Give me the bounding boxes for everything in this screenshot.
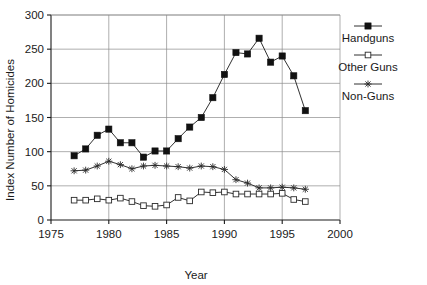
other-guns-marker-legend: [365, 52, 371, 58]
legend-item-non-guns[interactable]: Non-Guns: [342, 81, 395, 102]
non-guns-marker: [198, 163, 205, 170]
other-guns-marker: [222, 189, 228, 195]
legend-label: Other Guns: [338, 61, 398, 73]
other-guns-marker: [83, 197, 89, 203]
series-other-guns: [71, 189, 308, 209]
handguns-marker: [129, 140, 135, 146]
handguns-marker: [94, 132, 100, 138]
gridlines: [51, 15, 340, 220]
handguns-marker: [117, 140, 123, 146]
handguns-marker: [71, 153, 77, 159]
handguns-marker: [83, 146, 89, 152]
series-handguns: [71, 35, 308, 160]
non-guns-marker: [302, 186, 309, 193]
other-guns-marker: [71, 197, 77, 203]
legend: HandgunsOther GunsNon-Guns: [338, 23, 398, 102]
other-guns-marker: [175, 195, 181, 201]
homicide-index-line-chart: 050100150200250300 197519801985199019952…: [0, 0, 427, 285]
non-guns-marker: [117, 161, 124, 168]
legend-item-other-guns[interactable]: Other Guns: [338, 52, 398, 73]
non-guns-marker: [140, 163, 147, 170]
handguns-marker: [302, 108, 308, 114]
other-guns-marker: [152, 204, 158, 210]
other-guns-marker: [303, 199, 309, 205]
non-guns-marker: [71, 167, 78, 174]
non-guns-marker: [255, 184, 262, 191]
non-guns-marker: [186, 165, 193, 172]
handguns-marker: [279, 53, 285, 59]
other-guns-marker: [129, 199, 135, 205]
handguns-marker: [233, 49, 239, 55]
non-guns-marker: [82, 167, 89, 174]
y-axis-title: Index Number of Homicides: [4, 59, 16, 201]
non-guns-marker: [221, 166, 228, 173]
x-tick-label: 1975: [38, 228, 64, 240]
data-series: [71, 35, 309, 209]
y-tick-label: 300: [25, 9, 44, 21]
non-guns-marker-legend: [364, 81, 371, 88]
other-guns-marker: [268, 191, 274, 197]
non-guns-marker: [290, 184, 297, 191]
x-tick-label: 1980: [96, 228, 122, 240]
non-guns-marker: [175, 163, 182, 170]
chart-canvas: 050100150200250300 197519801985199019952…: [0, 0, 427, 285]
non-guns-marker: [94, 163, 101, 170]
y-tick-label: 0: [38, 214, 44, 226]
other-guns-marker: [94, 196, 100, 202]
non-guns-marker: [128, 165, 135, 172]
handguns-marker: [291, 73, 297, 79]
handguns-marker: [256, 35, 262, 41]
handguns-marker: [210, 95, 216, 101]
other-guns-marker: [291, 197, 297, 203]
other-guns-marker: [164, 202, 170, 208]
legend-label: Handguns: [342, 32, 395, 44]
non-guns-marker: [232, 176, 239, 183]
x-axis-title: Year: [184, 269, 207, 281]
non-guns-marker: [105, 158, 112, 165]
handguns-marker: [106, 126, 112, 132]
y-axis-ticks: 050100150200250300: [25, 9, 51, 226]
other-guns-marker: [198, 189, 204, 195]
other-guns-marker: [279, 191, 285, 197]
x-tick-label: 1990: [212, 228, 238, 240]
handguns-marker: [152, 148, 158, 154]
other-guns-marker: [106, 197, 112, 203]
x-tick-label: 1985: [154, 228, 180, 240]
other-guns-marker: [187, 198, 193, 204]
non-guns-marker: [279, 184, 286, 191]
legend-label: Non-Guns: [342, 90, 395, 102]
other-guns-marker: [141, 203, 147, 209]
non-guns-marker: [151, 162, 158, 169]
x-tick-label: 1995: [269, 228, 295, 240]
handguns-marker: [140, 154, 146, 160]
other-guns-marker: [118, 195, 124, 201]
handguns-marker: [187, 124, 193, 130]
handguns-marker: [268, 59, 274, 65]
other-guns-marker: [256, 191, 262, 197]
y-tick-label: 200: [25, 77, 44, 89]
x-tick-label: 2000: [327, 228, 353, 240]
other-guns-marker: [233, 191, 239, 197]
y-tick-label: 100: [25, 146, 44, 158]
handguns-marker: [221, 71, 227, 77]
non-guns-marker: [209, 163, 216, 170]
other-guns-marker: [210, 190, 216, 196]
y-tick-label: 150: [25, 112, 44, 124]
handguns-marker: [244, 51, 250, 57]
y-tick-label: 250: [25, 43, 44, 55]
non-guns-marker: [244, 180, 251, 187]
non-guns-marker: [163, 163, 170, 170]
other-guns-marker: [245, 191, 251, 197]
handguns-marker: [164, 148, 170, 154]
handguns-marker: [198, 114, 204, 120]
legend-item-handguns[interactable]: Handguns: [342, 23, 395, 44]
series-non-guns: [71, 158, 309, 193]
x-axis-ticks: 197519801985199019952000: [38, 220, 353, 240]
handguns-marker-legend: [365, 23, 371, 29]
handguns-marker: [175, 136, 181, 142]
non-guns-marker: [267, 184, 274, 191]
y-tick-label: 50: [31, 180, 44, 192]
